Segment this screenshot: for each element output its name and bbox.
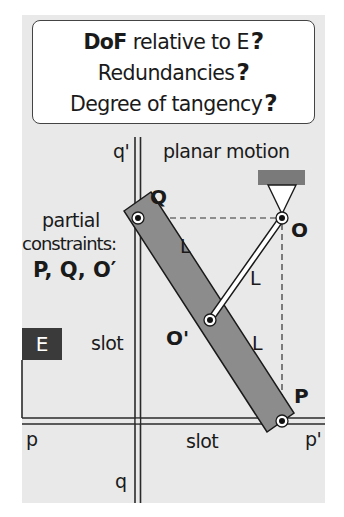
pin-o	[276, 212, 288, 224]
constraints-label: constraints:	[22, 233, 116, 254]
slot-label-left: slot	[91, 332, 123, 354]
q-label: q	[115, 470, 127, 492]
point-o-label: O	[291, 218, 308, 242]
pin-p	[276, 415, 288, 427]
bar-qp	[124, 192, 294, 432]
length-l-label-3: L	[252, 332, 262, 354]
point-q-label: Q	[150, 185, 167, 209]
q-prime-label: q'	[113, 140, 129, 162]
constraint-points-label: P, Q, O′	[33, 258, 116, 282]
p-prime-label: p'	[305, 428, 321, 450]
e-label: E	[36, 332, 49, 356]
slot-crossing	[136, 419, 140, 423]
link-oo-prime	[210, 218, 282, 320]
length-l-label-2: L	[250, 267, 260, 289]
p-label: p	[26, 428, 38, 450]
vertical-slot-q	[135, 137, 141, 503]
e-body-box: E	[22, 328, 62, 360]
pin-q	[132, 212, 144, 224]
slot-label-bottom: slot	[186, 430, 218, 452]
planar-motion-label: planar motion	[163, 140, 290, 162]
point-o-prime-label: O'	[166, 326, 189, 350]
ground-support	[258, 170, 305, 214]
pin-o-prime	[204, 314, 216, 326]
partial-label: partial	[42, 209, 100, 231]
point-p-label: P	[294, 384, 309, 408]
length-l-label-1: L	[180, 235, 190, 257]
